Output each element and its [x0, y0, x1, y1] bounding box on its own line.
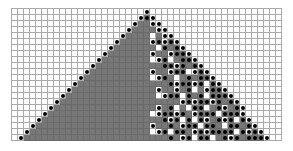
dot-marker-icon: [181, 100, 185, 104]
dot-marker-icon: [49, 106, 53, 110]
dot-marker-icon: [235, 124, 239, 128]
dot-marker-icon: [253, 124, 257, 128]
dot-marker-icon: [187, 82, 191, 86]
grid-cell: [276, 135, 282, 141]
dot-marker-icon: [133, 22, 137, 26]
dot-marker-icon: [199, 106, 203, 110]
dot-marker-icon: [205, 130, 209, 134]
dot-marker-icon: [181, 136, 185, 140]
dot-marker-icon: [151, 22, 155, 26]
dot-marker-icon: [205, 88, 209, 92]
dot-marker-icon: [199, 70, 203, 74]
dot-marker-icon: [175, 46, 179, 50]
dot-marker-icon: [43, 112, 47, 116]
dot-marker-icon: [205, 100, 209, 104]
dot-marker-icon: [73, 82, 77, 86]
dot-marker-icon: [205, 76, 209, 80]
dot-marker-icon: [241, 112, 245, 116]
dot-marker-icon: [67, 88, 71, 92]
dot-marker-icon: [223, 136, 227, 140]
dot-marker-icon: [169, 118, 173, 122]
dot-marker-icon: [187, 58, 191, 62]
dot-marker-icon: [235, 100, 239, 104]
dot-marker-icon: [229, 136, 233, 140]
dot-marker-icon: [175, 88, 179, 92]
dot-marker-icon: [193, 58, 197, 62]
dot-marker-icon: [85, 70, 89, 74]
dot-marker-icon: [223, 130, 227, 134]
dot-marker-icon: [163, 64, 167, 68]
dot-marker-icon: [187, 88, 191, 92]
dot-marker-icon: [199, 112, 203, 116]
dot-marker-icon: [223, 94, 227, 98]
dot-marker-icon: [193, 106, 197, 110]
dot-marker-icon: [181, 112, 185, 116]
dot-marker-icon: [229, 112, 233, 116]
dot-marker-icon: [193, 112, 197, 116]
dot-marker-icon: [157, 40, 161, 44]
dot-marker-icon: [223, 112, 227, 116]
dot-marker-icon: [241, 118, 245, 122]
dot-marker-icon: [181, 64, 185, 68]
dot-marker-icon: [193, 124, 197, 128]
dot-marker-icon: [79, 76, 83, 80]
dot-marker-icon: [31, 124, 35, 128]
dot-marker-icon: [259, 130, 263, 134]
dot-marker-icon: [199, 100, 203, 104]
dot-marker-icon: [181, 124, 185, 128]
dot-marker-icon: [157, 112, 161, 116]
dot-marker-icon: [181, 46, 185, 50]
dot-marker-icon: [205, 112, 209, 116]
dot-marker-icon: [175, 118, 179, 122]
dot-marker-icon: [265, 136, 269, 140]
dot-marker-icon: [175, 112, 179, 116]
dot-marker-icon: [205, 136, 209, 140]
dot-marker-icon: [169, 40, 173, 44]
dot-marker-icon: [229, 100, 233, 104]
dot-marker-icon: [19, 136, 23, 140]
dot-marker-icon: [175, 52, 179, 56]
automaton-grid: [11, 8, 282, 141]
dot-marker-icon: [37, 118, 41, 122]
dot-marker-icon: [193, 64, 197, 68]
dot-marker-icon: [163, 58, 167, 62]
dot-marker-icon: [169, 106, 173, 110]
dot-marker-icon: [55, 100, 59, 104]
dot-marker-icon: [211, 76, 215, 80]
dot-marker-icon: [187, 52, 191, 56]
dot-marker-icon: [163, 118, 167, 122]
dot-marker-icon: [205, 70, 209, 74]
dot-marker-icon: [181, 70, 185, 74]
dot-marker-icon: [103, 52, 107, 56]
dot-marker-icon: [145, 16, 149, 20]
dot-marker-icon: [163, 112, 167, 116]
dot-marker-icon: [211, 124, 215, 128]
dot-marker-icon: [205, 118, 209, 122]
dot-marker-icon: [235, 112, 239, 116]
dot-marker-icon: [181, 82, 185, 86]
dot-marker-icon: [115, 40, 119, 44]
dot-marker-icon: [91, 64, 95, 68]
dot-marker-icon: [175, 94, 179, 98]
dot-marker-icon: [109, 46, 113, 50]
dot-marker-icon: [169, 64, 173, 68]
dot-marker-icon: [175, 64, 179, 68]
dot-marker-icon: [187, 76, 191, 80]
dot-marker-icon: [169, 52, 173, 56]
dot-marker-icon: [61, 94, 65, 98]
dot-marker-icon: [157, 22, 161, 26]
dot-marker-icon: [211, 100, 215, 104]
dot-marker-icon: [187, 124, 191, 128]
dot-marker-icon: [211, 94, 215, 98]
dot-marker-icon: [211, 88, 215, 92]
dot-marker-icon: [223, 118, 227, 122]
dot-marker-icon: [193, 130, 197, 134]
dot-marker-icon: [157, 76, 161, 80]
dot-marker-icon: [217, 88, 221, 92]
dot-marker-icon: [181, 52, 185, 56]
dot-marker-icon: [229, 118, 233, 122]
dot-marker-icon: [163, 94, 167, 98]
dot-marker-icon: [187, 94, 191, 98]
dot-marker-icon: [193, 82, 197, 86]
dot-marker-icon: [163, 28, 167, 32]
